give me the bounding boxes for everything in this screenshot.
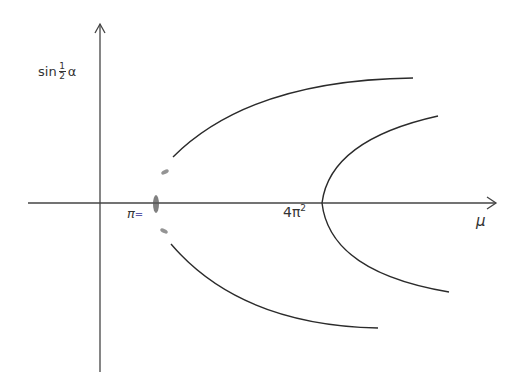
parabola-at-4pi2: [322, 116, 449, 292]
four-pi-base: 4π: [283, 204, 300, 220]
four-pi-exp: 2: [300, 203, 306, 213]
lower-branch-from-pi: [171, 244, 378, 328]
upper-branch-from-pi: [173, 78, 413, 157]
x-axis-label: μ: [476, 212, 486, 230]
y-label-frac-num: 1: [59, 62, 65, 71]
bifurcation-diagram: [0, 0, 516, 387]
y-label-var: α: [68, 64, 77, 79]
y-label-prefix: sin: [38, 64, 57, 79]
smudge-mark: [161, 168, 170, 175]
four-pi-squared-tick-label: 4π2: [283, 203, 306, 220]
pi-tick-label: π=: [127, 206, 143, 221]
pi-symbol: π: [127, 206, 135, 221]
smudge-mark: [153, 195, 159, 213]
smudge-mark: [160, 227, 169, 234]
y-label-frac-den: 2: [59, 72, 65, 81]
y-label-fraction: 1 2: [59, 62, 66, 81]
pi-marker: =: [135, 209, 143, 220]
y-axis-label: sin 1 2 α: [38, 62, 76, 81]
